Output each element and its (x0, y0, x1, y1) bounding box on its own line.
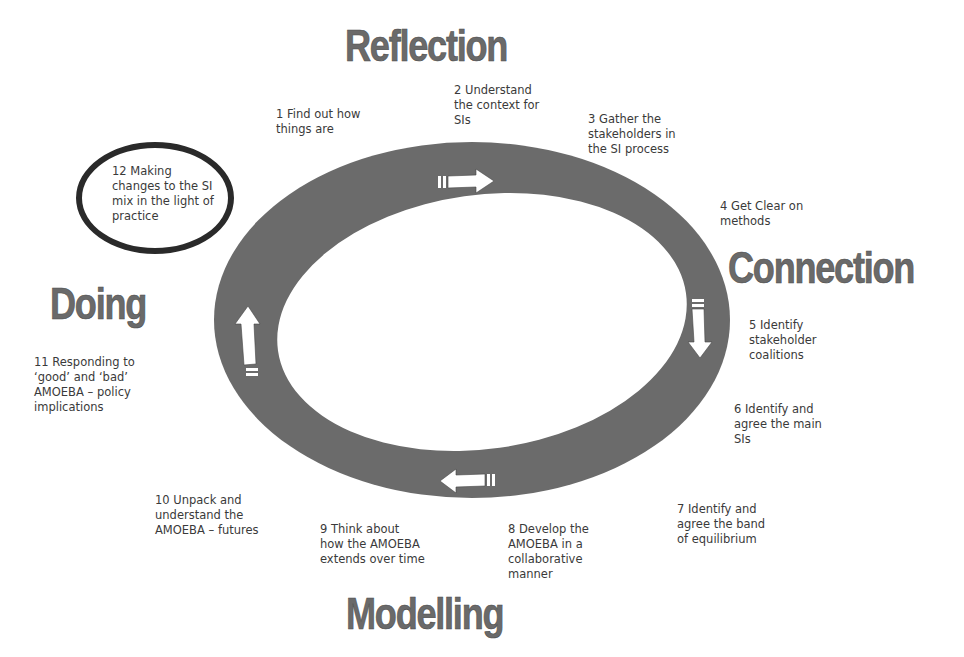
step-3-label: 3 Gather the stakeholders in the SI proc… (588, 112, 676, 157)
step-12-label: 12 Making changes to the SI mix in the l… (112, 164, 214, 224)
phase-heading-connection: Connection (728, 246, 914, 290)
step-7-label: 7 Identify and agree the band of equilib… (677, 502, 765, 547)
step-11-label: 11 Responding to ‘good’ and ‘bad’ AMOEBA… (34, 355, 135, 415)
phase-heading-modelling: Modelling (346, 592, 503, 636)
step-4-label: 4 Get Clear on methods (720, 199, 803, 229)
step-6-label: 6 Identify and agree the main SIs (734, 402, 822, 447)
step-1-label: 1 Find out how things are (276, 107, 360, 137)
step-8-label: 8 Develop the AMOEBA in a collaborative … (508, 522, 589, 582)
phase-heading-doing: Doing (50, 282, 146, 326)
phase-heading-reflection: Reflection (345, 24, 507, 68)
step-10-label: 10 Unpack and understand the AMOEBA – fu… (155, 493, 259, 538)
step-5-label: 5 Identify stakeholder coalitions (749, 318, 817, 363)
step-2-label: 2 Understand the context for SIs (454, 83, 539, 128)
step-9-label: 9 Think about how the AMOEBA extends ove… (320, 522, 425, 567)
